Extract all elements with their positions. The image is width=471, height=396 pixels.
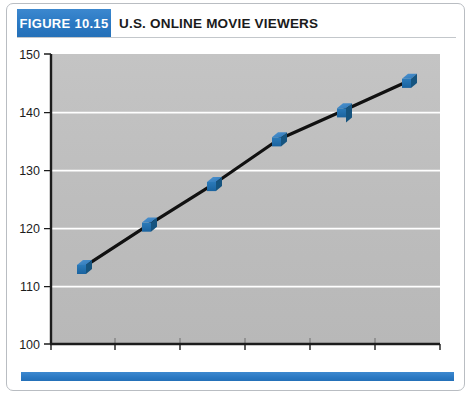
plot-area-background <box>50 54 440 344</box>
chart-region: 150 140 130 120 110 100 <box>7 40 465 350</box>
y-tick-label: 130 <box>19 164 40 178</box>
header-divider <box>17 37 456 38</box>
figure-number-badge: FIGURE 10.15 <box>17 9 111 37</box>
figure-header: FIGURE 10.15 U.S. ONLINE MOVIE VIEWERS <box>7 9 465 37</box>
figure-footer-bar <box>21 372 454 381</box>
y-tick-label: 140 <box>19 106 40 120</box>
y-tick-label: 150 <box>19 48 40 62</box>
y-tick-label: 120 <box>19 222 40 236</box>
line-chart: 150 140 130 120 110 100 <box>7 40 465 350</box>
figure-title: U.S. ONLINE MOVIE VIEWERS <box>119 9 318 37</box>
figure-card: FIGURE 10.15 U.S. ONLINE MOVIE VIEWERS <box>6 3 465 391</box>
y-tick-label: 110 <box>20 280 40 294</box>
y-tick-label: 100 <box>19 338 40 351</box>
y-axis-tick-labels: 150 140 130 120 110 100 <box>19 48 40 351</box>
